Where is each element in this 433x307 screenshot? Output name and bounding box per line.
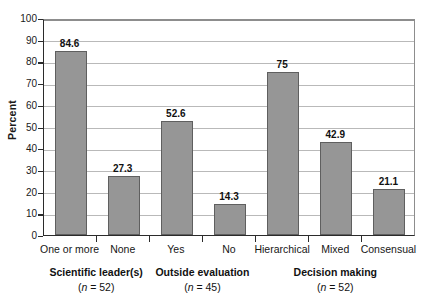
bar [320, 142, 352, 235]
bar-value-label: 27.3 [93, 164, 153, 174]
x-tick-mark [149, 236, 150, 242]
bar [55, 51, 87, 235]
y-tick-label: 100 [6, 14, 37, 24]
bar-chart-figure: Percent 0102030405060708090100 One or mo… [0, 0, 433, 307]
gridline [44, 20, 414, 21]
y-tick-label: 60 [6, 101, 37, 111]
group-label-n: (n = 52) [255, 280, 415, 294]
gridline [44, 150, 414, 151]
plot-area [43, 19, 415, 236]
bar [373, 189, 405, 235]
gridline [44, 85, 414, 86]
x-tick-mark [96, 236, 97, 242]
bar [161, 121, 193, 235]
gridline [44, 106, 414, 107]
bar [267, 72, 299, 235]
bar-value-label: 42.9 [305, 130, 365, 140]
bar-value-label: 21.1 [358, 177, 418, 187]
group-label: Decision making(n = 52) [255, 266, 415, 294]
y-tick-label: 70 [6, 79, 37, 89]
y-tick-label: 10 [6, 209, 37, 219]
bar [108, 176, 140, 235]
x-tick-mark [255, 236, 256, 242]
bar-value-label: 14.3 [199, 192, 259, 202]
gridline [44, 128, 414, 129]
group-label-name: Decision making [255, 266, 415, 279]
y-tick-mark [38, 236, 43, 237]
bar-value-label: 84.6 [40, 39, 100, 49]
y-tick-label: 50 [6, 123, 37, 133]
y-tick-label: 30 [6, 166, 37, 176]
x-tick-mark [202, 236, 203, 242]
bar-value-label: 52.6 [146, 109, 206, 119]
bar [214, 204, 246, 235]
y-tick-label: 90 [6, 36, 37, 46]
y-tick-label: 20 [6, 188, 37, 198]
y-tick-label: 80 [6, 57, 37, 67]
gridline [44, 63, 414, 64]
bar-value-label: 75 [252, 60, 312, 70]
y-tick-label: 0 [6, 231, 37, 241]
y-tick-label: 40 [6, 144, 37, 154]
x-tick-mark [361, 236, 362, 242]
x-tick-mark [308, 236, 309, 242]
category-label: Consensual [344, 243, 432, 255]
